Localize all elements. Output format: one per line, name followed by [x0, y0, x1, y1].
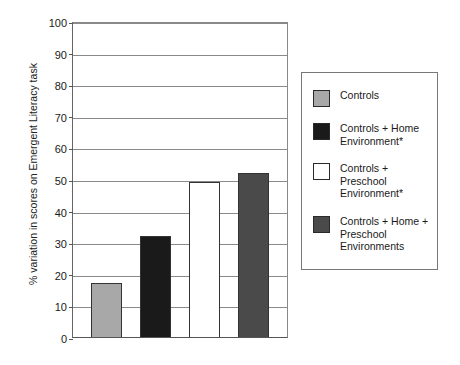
bar — [91, 283, 122, 337]
y-axis-tick-label: 10 — [55, 301, 67, 313]
y-axis-tick-label: 80 — [55, 80, 67, 92]
legend-swatch — [313, 90, 330, 107]
bar — [238, 173, 269, 337]
y-axis-tick-label: 100 — [49, 17, 67, 29]
y-axis-tick-label: 50 — [55, 175, 67, 187]
y-axis-tick-label: 40 — [55, 207, 67, 219]
legend-label: Controls + Preschool Environment* — [340, 162, 403, 200]
legend-item: Controls + Home Environment* — [313, 122, 437, 147]
legend-item: Controls + Home + Preschool Environments — [313, 215, 437, 253]
y-axis-tick-label: 90 — [55, 49, 67, 61]
y-axis-tick-label: 20 — [55, 270, 67, 282]
legend-swatch — [313, 123, 330, 140]
legend-label: Controls + Home + Preschool Environments — [340, 215, 428, 253]
y-axis-tick-label: 0 — [61, 333, 67, 345]
legend-label: Controls — [340, 89, 379, 102]
legend-swatch — [313, 163, 330, 180]
legend-item: Controls — [313, 89, 437, 107]
bar — [140, 236, 171, 337]
y-axis-label: % variation in scores on Emergent Litera… — [27, 24, 39, 324]
plot-area: 0102030405060708090100 — [72, 22, 288, 338]
bar-chart-figure: % variation in scores on Emergent Litera… — [0, 0, 460, 365]
legend-label: Controls + Home Environment* — [340, 122, 419, 147]
bar-series — [73, 23, 287, 337]
bar — [189, 182, 220, 337]
y-axis-tick-label: 30 — [55, 238, 67, 250]
legend-swatch — [313, 216, 330, 233]
y-axis-tick-label: 60 — [55, 143, 67, 155]
y-axis-tick-label: 70 — [55, 112, 67, 124]
legend-item: Controls + Preschool Environment* — [313, 162, 437, 200]
chart-legend: ControlsControls + Home Environment*Cont… — [301, 72, 438, 270]
